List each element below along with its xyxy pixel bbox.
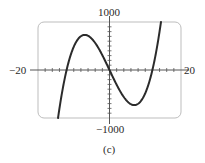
graph-window bbox=[0, 0, 205, 163]
x-max-label: 20 bbox=[184, 64, 195, 76]
figure-caption: (c) bbox=[103, 143, 115, 155]
y-min-label: −1000 bbox=[96, 123, 124, 135]
x-min-label: −20 bbox=[9, 64, 26, 76]
y-max-label: 1000 bbox=[98, 6, 120, 18]
